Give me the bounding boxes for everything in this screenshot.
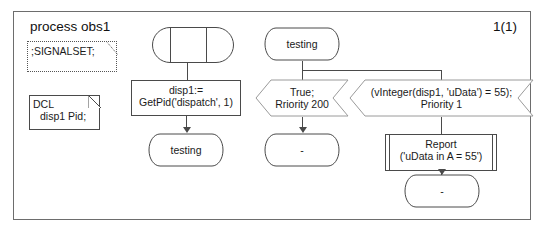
connector-branch-horizontal — [302, 70, 442, 71]
report-text-line-1: Report — [385, 139, 497, 151]
task-text-line-1: disp1:= — [131, 85, 241, 97]
start-symbol-divider-left — [170, 27, 171, 63]
signalset-fold-corner-icon — [106, 41, 118, 55]
page-title: process obs1 — [30, 19, 110, 34]
page-number-label: 1(1) — [493, 19, 517, 34]
signalset-declaration-text: ;SIGNALSET; — [31, 46, 95, 58]
dcl-fold-corner-icon — [88, 95, 101, 108]
connector-start-to-task — [187, 63, 188, 80]
input-true-line-1: True; — [290, 86, 314, 98]
input-label-group: True; Rriority 200 — [255, 79, 349, 117]
connector-state-to-branch-stub — [302, 61, 303, 70]
connector-vinteger-to-report — [441, 117, 442, 134]
dcl-body-text: disp1 Pid; — [40, 111, 86, 123]
start-symbol[interactable] — [152, 27, 234, 63]
input-label-group: (vInteger(disp1, 'uData') = 55); Priorit… — [349, 79, 534, 117]
sdl-diagram-canvas: process obs1 1(1) ;SIGNALSET; DCL disp1 … — [0, 0, 546, 232]
input-symbol-vinteger[interactable]: (vInteger(disp1, 'uData') = 55); Priorit… — [349, 79, 534, 117]
state-label: - — [264, 133, 340, 167]
state-symbol-testing-source[interactable]: testing — [264, 27, 340, 61]
report-text-line-2: ('uData in A = 55') — [385, 151, 497, 163]
dcl-keyword-text: DCL — [33, 99, 54, 111]
state-symbol-dash-right[interactable]: - — [404, 174, 480, 208]
input-symbol-true[interactable]: True; Rriority 200 — [255, 79, 349, 117]
state-symbol-dash-middle[interactable]: - — [264, 133, 340, 167]
state-label: - — [404, 174, 480, 208]
state-label: testing — [148, 133, 224, 167]
start-symbol-divider-right — [206, 27, 207, 63]
state-symbol-testing-target[interactable]: testing — [148, 133, 224, 167]
state-label: testing — [264, 27, 340, 61]
input-true-line-2: Rriority 200 — [275, 98, 329, 110]
input-vinteger-line-2: Priority 1 — [421, 98, 462, 110]
input-vinteger-line-1: (vInteger(disp1, 'uData') = 55); — [371, 86, 512, 98]
task-text-line-2: GetPid('dispatch', 1) — [131, 97, 241, 109]
